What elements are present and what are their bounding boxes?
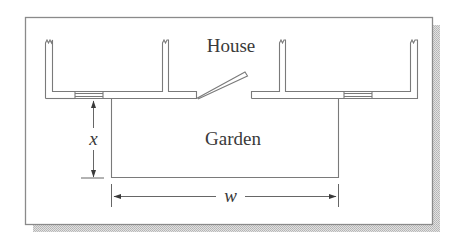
x-dimension-label: x [88, 128, 98, 149]
house-label: House [207, 35, 256, 56]
house-garden-diagram: x w House Garden [0, 0, 457, 234]
garden-label: Garden [205, 128, 261, 149]
w-dimension-label: w [224, 185, 237, 206]
